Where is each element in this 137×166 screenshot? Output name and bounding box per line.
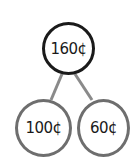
connector-left <box>51 74 62 100</box>
part-label-left: 100¢ <box>25 119 61 137</box>
whole-node: 160¢ <box>42 22 95 75</box>
whole-label: 160¢ <box>50 40 86 58</box>
connector-right <box>75 74 92 100</box>
part-node-right: 60¢ <box>77 99 130 157</box>
part-node-left: 100¢ <box>15 99 72 157</box>
part-label-right: 60¢ <box>90 119 117 137</box>
